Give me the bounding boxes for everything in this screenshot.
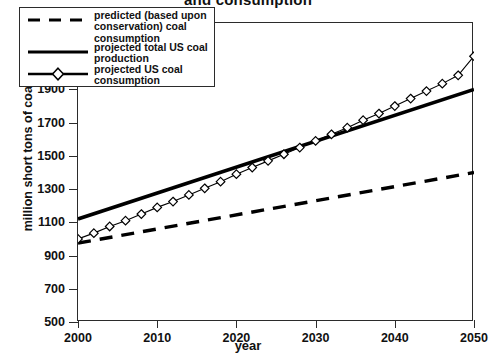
- y-axis-tick-label: 500: [44, 315, 65, 329]
- data-point-marker: [422, 87, 431, 96]
- legend-label-projected-consumption: projected US coal consumption: [94, 64, 209, 87]
- series-line: [78, 173, 474, 244]
- y-axis-tick: [69, 289, 78, 290]
- chart-figure: and consumption million short tons of co…: [0, 0, 496, 359]
- data-point-marker: [216, 177, 225, 186]
- y-axis-tick: [69, 256, 78, 257]
- data-point-marker: [153, 203, 162, 212]
- data-point-marker: [90, 229, 99, 238]
- y-axis-tick-label: 1700: [37, 116, 65, 130]
- x-axis-tick-label: 2000: [64, 331, 92, 345]
- y-axis-tick-label: 700: [44, 282, 65, 296]
- data-point-marker: [105, 222, 114, 231]
- y-axis-tick-label: 1300: [37, 182, 65, 196]
- legend-label-projected-production: projected total US coal production: [94, 42, 209, 65]
- x-axis-tick-label: 2030: [302, 331, 330, 345]
- y-axis-tick: [69, 222, 78, 223]
- y-axis-tick: [69, 189, 78, 190]
- x-axis-tick-label: 2010: [143, 331, 171, 345]
- chart-legend: predicted (based upon conservation) coal…: [19, 7, 215, 87]
- x-axis-tick: [157, 320, 158, 328]
- data-point-marker: [185, 191, 194, 200]
- series-line: [78, 89, 474, 219]
- y-axis-tick: [69, 156, 78, 157]
- legend-label-predicted-conservation: predicted (based upon conservation) coal…: [94, 10, 209, 44]
- data-point-marker: [121, 216, 130, 225]
- x-axis-tick-label: 2040: [381, 331, 409, 345]
- legend-item-projected-consumption: projected US coal consumption: [26, 66, 209, 87]
- data-point-marker: [137, 210, 146, 219]
- data-point-marker: [232, 170, 241, 179]
- solid-line-sample-icon: [26, 44, 92, 60]
- data-point-marker: [375, 109, 384, 118]
- data-point-marker: [169, 197, 178, 206]
- y-axis-tick: [69, 322, 78, 323]
- x-axis-tick: [474, 320, 475, 328]
- x-axis-tick: [78, 320, 79, 328]
- x-axis-tick: [236, 320, 237, 328]
- legend-item-predicted-conservation: predicted (based upon conservation) coal…: [26, 12, 209, 44]
- y-axis-tick: [69, 123, 78, 124]
- data-point-marker: [391, 102, 400, 111]
- legend-item-projected-production: projected total US coal production: [26, 44, 209, 65]
- y-axis-tick: [69, 89, 78, 90]
- x-axis-tick-label: 2020: [222, 331, 250, 345]
- dashed-line-sample-icon: [26, 12, 92, 28]
- x-axis-tick: [316, 320, 317, 328]
- data-point-marker: [438, 79, 447, 88]
- y-axis-tick-label: 900: [44, 249, 65, 263]
- data-point-marker: [406, 94, 415, 103]
- x-axis-tick-label: 2050: [460, 331, 488, 345]
- diamond-line-sample-icon: [26, 66, 92, 82]
- x-axis-tick: [395, 320, 396, 328]
- data-point-marker: [200, 184, 209, 193]
- y-axis-tick-label: 1100: [38, 215, 65, 229]
- y-axis-tick-label: 1500: [37, 149, 65, 163]
